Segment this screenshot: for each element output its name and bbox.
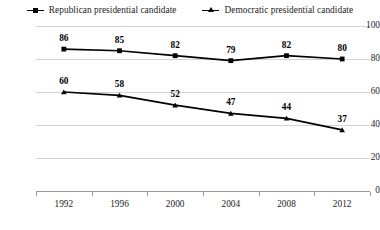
square-marker-icon (284, 53, 289, 58)
data-point-label: 37 (338, 115, 347, 124)
series-line (64, 49, 342, 61)
data-point-label: 80 (338, 44, 347, 53)
line-chart: Republican presidential candidate Democr… (0, 0, 380, 230)
data-point-label: 58 (115, 80, 124, 89)
data-point-label: 52 (171, 90, 180, 99)
data-point-label: 82 (171, 41, 180, 50)
series-lines (0, 0, 380, 230)
data-point-label: 82 (282, 41, 291, 50)
square-marker-icon (173, 53, 178, 58)
series-line (64, 92, 342, 130)
plot-area: 020406080100 199219962000200420082012 86… (0, 0, 380, 230)
square-marker-icon (340, 57, 345, 62)
data-point-label: 60 (59, 77, 68, 86)
data-point-label: 44 (282, 103, 291, 112)
square-marker-icon (61, 47, 66, 52)
square-marker-icon (228, 58, 233, 63)
data-point-label: 79 (226, 46, 235, 55)
data-point-label: 85 (115, 36, 124, 45)
square-marker-icon (117, 48, 122, 53)
data-point-label: 47 (226, 98, 235, 107)
data-point-label: 86 (59, 34, 68, 43)
